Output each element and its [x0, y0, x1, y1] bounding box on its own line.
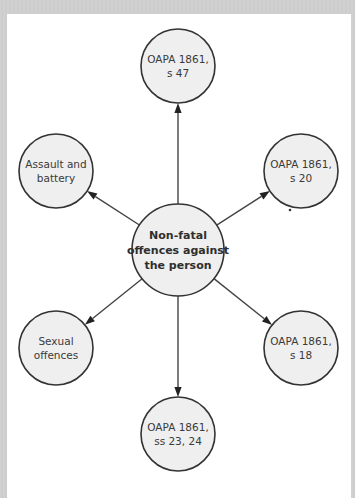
edge-center-to-s20 [217, 196, 262, 225]
nodes-layer: Non-fataloffences againstthe personOAPA … [19, 29, 338, 471]
node-label-line: battery [37, 172, 75, 184]
node-s47: OAPA 1861,s 47 [141, 29, 215, 103]
node-label-line: s 18 [290, 349, 312, 361]
node-s18: OAPA 1861,s 18 [264, 311, 338, 385]
node-s20: OAPA 1861,s 20 [264, 134, 338, 208]
node-sexual: Sexualoffences [19, 311, 93, 385]
node-label-line: Assault and [25, 158, 86, 170]
node-label-line: OAPA 1861, [270, 335, 332, 347]
node-circle [264, 134, 338, 208]
diagram-panel: Non-fataloffences againstthe personOAPA … [7, 14, 351, 498]
node-circle [141, 397, 215, 471]
node-s2324: OAPA 1861,ss 23, 24 [141, 397, 215, 471]
node-label-line: offences [34, 349, 78, 361]
node-circle [141, 29, 215, 103]
arrowhead-icon [174, 103, 181, 113]
page-frame: Non-fataloffences againstthe personOAPA … [0, 0, 355, 498]
node-circle [19, 311, 93, 385]
node-label-line: s 47 [167, 67, 189, 79]
mind-map-diagram: Non-fataloffences againstthe personOAPA … [7, 14, 351, 498]
arrowhead-icon [87, 191, 97, 199]
node-center: Non-fataloffences againstthe person [127, 204, 229, 296]
node-label-line: OAPA 1861, [147, 421, 209, 433]
edge-center-to-assault [95, 197, 139, 225]
edge-center-to-s18 [214, 279, 264, 319]
edge-center-to-sexual [93, 279, 142, 319]
node-label-line: Sexual [38, 335, 73, 347]
node-label-line: the person [144, 259, 211, 272]
node-label-line: offences against [127, 244, 229, 257]
node-label-line: OAPA 1861, [270, 158, 332, 170]
node-label-line: Non-fatal [149, 229, 207, 242]
node-circle [19, 134, 93, 208]
arrowhead-icon [260, 191, 270, 199]
stray-dot [289, 209, 292, 212]
node-label-line: OAPA 1861, [147, 53, 209, 65]
node-assault: Assault andbattery [19, 134, 93, 208]
node-label-line: ss 23, 24 [154, 435, 202, 447]
node-label-line: s 20 [290, 172, 312, 184]
arrowhead-icon [174, 387, 181, 397]
node-circle [264, 311, 338, 385]
